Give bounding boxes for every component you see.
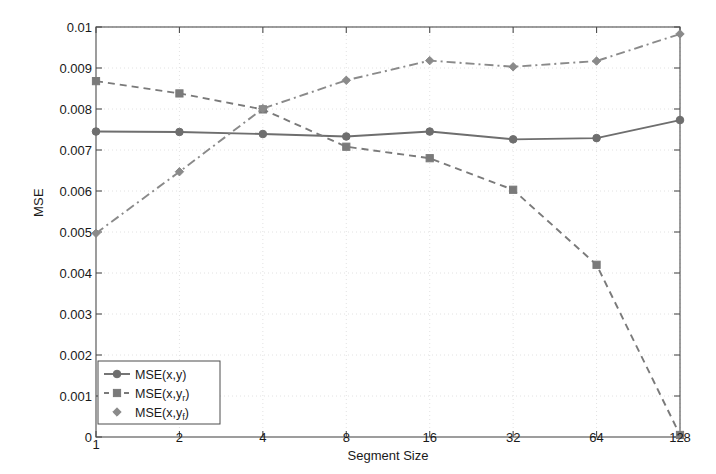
series-marker-1 (92, 78, 99, 85)
series-marker-1 (510, 186, 517, 193)
diamond-marker-shape (676, 30, 684, 38)
x-tick-label: 16 (422, 430, 436, 445)
y-tick-label: 0.007 (34, 143, 92, 158)
y-tick-label: 0.009 (34, 61, 92, 76)
chart-figure: MSE(x,y)MSE(x,yr)MSE(x,yf) 00.0010.0020.… (0, 0, 716, 474)
x-tick-label: 128 (669, 430, 691, 445)
legend-label-base-1: MSE(x,y (135, 387, 183, 401)
series-marker-2 (509, 63, 517, 71)
x-tick-label: 8 (343, 430, 350, 445)
y-tick-label: 0.004 (34, 266, 92, 281)
legend-label-tail-2: ) (185, 406, 189, 420)
legend-marker-1 (113, 389, 120, 396)
chart-legend: MSE(x,y)MSE(x,yr)MSE(x,yf) (98, 361, 220, 424)
y-tick-label: 0.003 (34, 307, 92, 322)
y-tick-label: 0.01 (34, 20, 92, 35)
y-tick-label: 0.008 (34, 102, 92, 117)
series-marker-2 (592, 57, 600, 65)
chart-plot-area: MSE(x,y)MSE(x,yr)MSE(x,yf) (0, 0, 716, 474)
series-marker-0 (259, 130, 267, 138)
series-marker-2 (342, 76, 350, 84)
y-tick-label: 0.002 (34, 348, 92, 363)
series-marker-0 (342, 133, 350, 141)
diamond-marker-shape (509, 63, 517, 71)
series-marker-2 (426, 56, 434, 64)
series-marker-1 (343, 143, 350, 150)
y-tick-label: 0 (34, 430, 92, 445)
series-marker-0 (92, 128, 100, 136)
x-tick-label: 4 (259, 430, 266, 445)
x-tick-label: 2 (176, 430, 183, 445)
legend-label-base-2: MSE(x,y (135, 406, 183, 420)
legend-label-tail-1: ) (185, 387, 189, 401)
series-line-0 (96, 120, 680, 139)
diamond-marker-shape (342, 76, 350, 84)
y-axis-title: MSE (31, 173, 46, 233)
x-tick-label: 64 (589, 430, 603, 445)
diamond-marker-shape (426, 56, 434, 64)
y-tick-label: 0.001 (34, 389, 92, 404)
x-axis-title: Segment Size (96, 448, 680, 463)
y-axis-tick-labels: 00.0010.0020.0030.0040.0050.0060.0070.00… (30, 0, 92, 474)
diamond-marker-shape (592, 57, 600, 65)
series-marker-1 (176, 90, 183, 97)
series-marker-1 (426, 155, 433, 162)
legend-label-base-0: MSE(x,y) (135, 368, 186, 382)
series-marker-0 (509, 136, 517, 144)
series-marker-1 (593, 261, 600, 268)
legend-label-0: MSE(x,y) (135, 368, 186, 382)
x-tick-label: 32 (506, 430, 520, 445)
series-marker-0 (676, 116, 684, 124)
series-marker-2 (676, 30, 684, 38)
series-marker-0 (593, 134, 601, 142)
legend-marker-0 (113, 370, 121, 378)
series-marker-0 (426, 128, 434, 136)
series-marker-0 (176, 128, 184, 136)
